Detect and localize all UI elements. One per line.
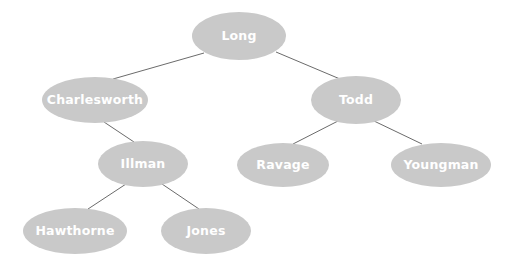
tree-edge: [88, 184, 126, 209]
tree-node-label: Charlesworth: [47, 94, 143, 107]
tree-node-youngman[interactable]: Youngman: [391, 143, 491, 187]
tree-node-long[interactable]: Long: [192, 12, 286, 60]
tree-node-illman[interactable]: Illman: [98, 141, 188, 187]
tree-node-label: Long: [221, 30, 256, 43]
tree-edge: [104, 122, 134, 142]
tree-node-label: Illman: [121, 158, 166, 171]
tree-node-label: Jones: [186, 225, 225, 238]
tree-node-hawthorne[interactable]: Hawthorne: [23, 208, 127, 254]
tree-diagram: LongCharlesworthToddIllmanRavageYoungman…: [0, 0, 515, 270]
tree-node-label: Youngman: [403, 159, 478, 172]
tree-node-jones[interactable]: Jones: [161, 208, 251, 254]
tree-node-todd[interactable]: Todd: [311, 76, 401, 124]
tree-edge: [113, 53, 204, 79]
tree-node-label: Ravage: [256, 159, 309, 172]
tree-edge: [162, 184, 199, 209]
tree-edge: [374, 121, 422, 144]
tree-node-label: Hawthorne: [35, 225, 114, 238]
tree-edge: [276, 52, 340, 79]
tree-node-ravage[interactable]: Ravage: [237, 143, 329, 187]
tree-node-label: Todd: [339, 94, 373, 107]
tree-edge: [293, 121, 338, 144]
tree-node-charlesworth[interactable]: Charlesworth: [42, 77, 148, 123]
